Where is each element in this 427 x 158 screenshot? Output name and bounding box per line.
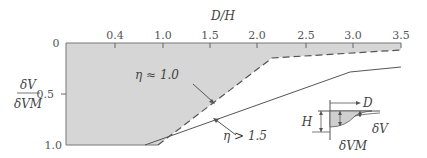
x-tick-label: 3.5: [392, 29, 410, 42]
x-tick-label: 1.0: [154, 29, 172, 42]
x-tick-label: 2.5: [297, 29, 315, 42]
svg-text:δV: δV: [372, 122, 389, 136]
inset-sketch: D H δV δVM: [301, 96, 389, 153]
annotation-eta-1-5: η > 1.5: [223, 129, 267, 143]
x-tick-label: 0.4: [106, 29, 124, 42]
x-axis-title: D/H: [210, 9, 236, 23]
x-tick-label: 2.0: [248, 29, 266, 42]
svg-text:δVM: δVM: [14, 97, 43, 111]
y-tick-label: 1.0: [45, 139, 63, 152]
svg-text:δVM: δVM: [339, 139, 368, 153]
y-tick-label: 0: [53, 37, 60, 50]
settlement-diagram: 0.4 1.0 1.5 2.0 2.5 3.0 3.5 D/H 0 0.5 1.…: [0, 0, 427, 158]
x-tick-label: 1.5: [201, 29, 219, 42]
svg-text:δV: δV: [20, 78, 37, 92]
svg-text:H: H: [301, 115, 313, 129]
annotation-eta-1: η ≈ 1.0: [135, 68, 179, 82]
svg-text:D: D: [362, 96, 373, 110]
x-tick-label: 3.0: [344, 29, 362, 42]
